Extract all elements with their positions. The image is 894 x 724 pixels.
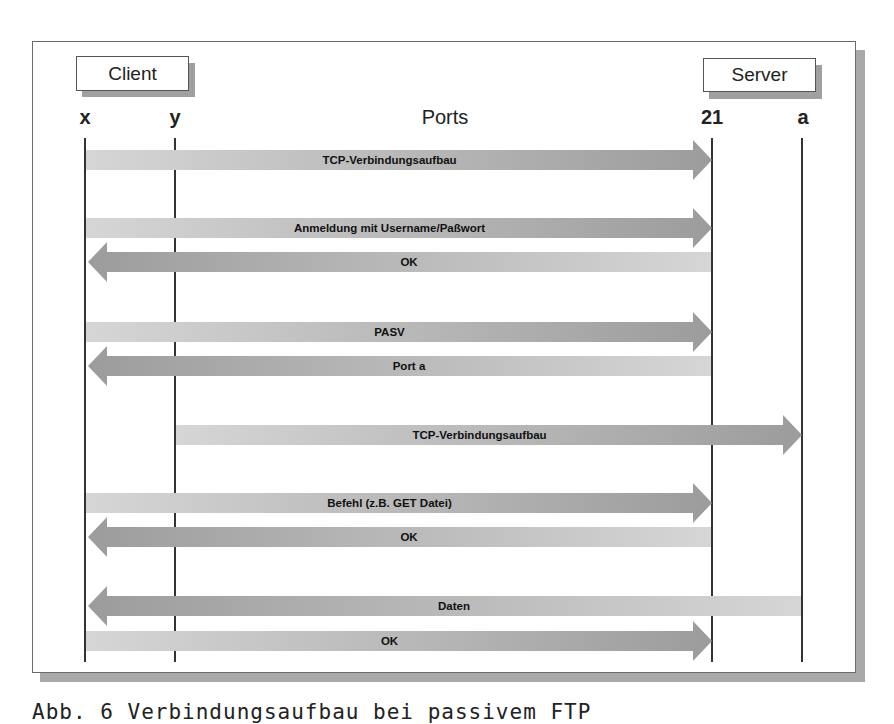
message-arrow-data-ok: OK (86, 620, 712, 662)
message-arrow-login-ok: OK (88, 241, 711, 283)
message-label: OK (86, 620, 693, 662)
port-label-y: y (169, 106, 180, 129)
port-label-x: x (79, 106, 90, 129)
lifeline-a (801, 138, 803, 662)
port-label-21: 21 (701, 106, 723, 129)
message-arrow-command-ok: OK (88, 516, 711, 558)
message-label: Port a (107, 345, 711, 387)
ports-title: Ports (422, 106, 469, 129)
message-label: OK (107, 516, 711, 558)
message-label: OK (107, 241, 711, 283)
client-box: Client (76, 56, 189, 91)
client-label: Client (108, 63, 157, 85)
server-label: Server (732, 64, 788, 86)
message-arrow-tcp-connect-control: TCP-Verbindungsaufbau (86, 139, 712, 181)
message-arrow-tcp-connect-data: TCP-Verbindungsaufbau (176, 414, 802, 456)
message-arrow-port-a: Port a (88, 345, 711, 387)
message-label: TCP-Verbindungsaufbau (86, 139, 693, 181)
server-box: Server (703, 58, 816, 92)
port-label-a: a (797, 106, 808, 129)
figure-caption: Abb. 6 Verbindungsaufbau bei passivem FT… (32, 700, 591, 724)
message-label: TCP-Verbindungsaufbau (176, 414, 783, 456)
